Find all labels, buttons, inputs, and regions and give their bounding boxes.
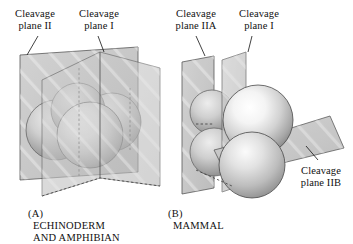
label-cleavage-plane-1b: Cleavage plane I [228, 8, 290, 31]
panel-a-caption-text: ECHINODERM AND AMPHIBIAN [28, 220, 120, 244]
panel-b-caption: (B) MAMMAL [168, 196, 224, 232]
panel-b-id: (B) [168, 208, 183, 219]
label-cleavage-plane-2: Cleavage plane II [4, 8, 66, 31]
panel-a-plane-I [42, 52, 160, 196]
label-cleavage-plane-2b: Cleavage plane IIB [288, 165, 353, 188]
label-cleavage-plane-2a: Cleavage plane IIA [163, 8, 229, 31]
panel-b-caption-text: MAMMAL [168, 220, 224, 232]
panel-a-id: (A) [28, 208, 43, 219]
label-cleavage-plane-1: Cleavage plane I [68, 8, 130, 31]
panel-a-caption: (A) ECHINODERM AND AMPHIBIAN [28, 196, 120, 244]
